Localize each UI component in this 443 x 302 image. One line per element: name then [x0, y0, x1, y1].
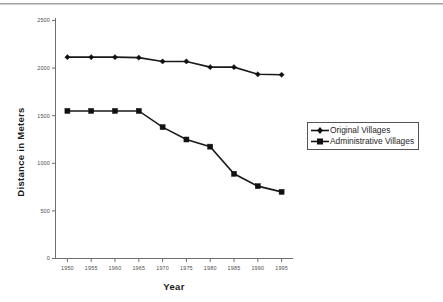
x-axis-tick-labels: 1950 1955 1960 1965 1970 1975 1980 1985 … — [61, 265, 288, 271]
x-tick-label: 1960 — [109, 265, 122, 271]
x-axis-title: Year — [163, 281, 184, 292]
square-marker-icon — [310, 136, 330, 147]
y-tick-label: 1500 — [37, 113, 50, 119]
data-point-square — [184, 137, 189, 142]
x-tick-label: 1990 — [251, 265, 264, 271]
x-tick-label: 1965 — [132, 265, 145, 271]
x-tick-label: 1975 — [180, 265, 193, 271]
y-tick-label: 2000 — [37, 65, 50, 71]
chart-series-layer — [65, 55, 284, 195]
data-point-square — [208, 144, 213, 149]
data-point-diamond — [231, 65, 236, 70]
y-tick-label: 1000 — [37, 160, 50, 166]
data-point-diamond — [65, 55, 70, 60]
data-point-diamond — [184, 59, 189, 64]
x-tick-label: 1970 — [156, 265, 169, 271]
data-point-diamond — [279, 72, 284, 77]
data-point-diamond — [208, 65, 213, 70]
chart-figure: 0 500 1000 1500 2000 2500 1950 1955 1960… — [0, 0, 443, 302]
data-point-square — [255, 184, 260, 189]
series-line — [67, 111, 281, 192]
chart-legend: Original Villages Administrative Village… — [307, 122, 419, 150]
legend-item-label: Administrative Villages — [330, 136, 414, 147]
y-tick-label: 500 — [40, 208, 50, 214]
data-point-square — [279, 189, 284, 194]
y-tick-label: 0 — [47, 255, 50, 261]
chart-axes — [56, 18, 294, 259]
line-chart-plot: 0 500 1000 1500 2000 2500 1950 1955 1960… — [0, 0, 443, 302]
data-point-diamond — [160, 59, 165, 64]
x-tick-label: 1995 — [275, 265, 288, 271]
series-diamond — [65, 55, 284, 78]
x-tick-label: 1955 — [85, 265, 98, 271]
data-point-diamond — [255, 72, 260, 77]
data-point-square — [65, 108, 70, 113]
data-point-diamond — [112, 55, 117, 60]
series-line — [67, 57, 281, 75]
y-tick-label: 2500 — [37, 17, 50, 23]
data-point-square — [113, 108, 118, 113]
legend-item[interactable]: Original Villages — [310, 125, 414, 136]
series-square — [65, 108, 284, 194]
legend-item[interactable]: Administrative Villages — [310, 136, 414, 147]
x-tick-label: 1980 — [204, 265, 217, 271]
data-point-square — [232, 171, 237, 176]
data-point-square — [89, 108, 94, 113]
legend-item-label: Original Villages — [330, 125, 390, 136]
x-tick-label: 1950 — [61, 265, 74, 271]
data-point-square — [136, 108, 141, 113]
data-point-diamond — [89, 55, 94, 60]
y-axis-title: Distance in Meters — [15, 107, 26, 196]
y-axis-ticks — [52, 21, 56, 259]
x-axis-ticks — [67, 259, 281, 263]
diamond-marker-icon — [310, 125, 330, 136]
x-tick-label: 1985 — [228, 265, 241, 271]
data-point-diamond — [136, 55, 141, 60]
data-point-square — [160, 125, 165, 130]
y-axis-tick-labels: 0 500 1000 1500 2000 2500 — [37, 17, 50, 261]
